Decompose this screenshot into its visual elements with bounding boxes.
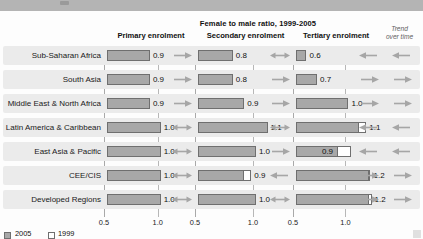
bar-2005 xyxy=(198,122,268,133)
row-label-middle-east-north-africa: Middle East & North Africa xyxy=(3,94,101,113)
cell-primary-row-6: 1.0 xyxy=(107,166,195,185)
chart-figure: Female to male ratio, 1999-2005 Primary … xyxy=(0,0,423,239)
column-header-primary: Primary enrolment xyxy=(108,31,194,40)
axis-tick-panel-3-1: 1.0 xyxy=(333,218,357,227)
column-header-tertiary: Tertiary enrolment xyxy=(296,31,376,40)
cell-primary-row-2: 0.9 xyxy=(107,70,195,89)
cell-primary-row-5: 1.0 xyxy=(107,142,195,161)
cell-tertiary-row-4: 1.1 xyxy=(296,118,382,137)
bar-value-label: 0.8 xyxy=(236,50,247,61)
cell-secondary-row-3: 0.9 xyxy=(198,94,293,113)
trend-over-time-cell-row-3 xyxy=(382,94,423,113)
trend-header-line-1: Trend xyxy=(376,25,423,33)
row-label-sub-saharan-africa: Sub-Saharan Africa xyxy=(3,46,101,65)
bar-value-label: 0.9 xyxy=(153,98,164,109)
trend-arrow-flat-icon xyxy=(269,195,291,204)
trend-arrow-up-icon xyxy=(391,75,413,84)
bar-2005 xyxy=(296,98,348,109)
axis-tick-panel-2-0.5: 0.5 xyxy=(183,218,207,227)
trend-arrow-up-icon xyxy=(391,171,413,180)
row-label-cee-cis: CEE/CIS xyxy=(3,166,101,185)
cell-primary-row-7: 1.0 xyxy=(107,190,195,209)
chart-supertitle: Female to male ratio, 1999-2005 xyxy=(108,19,408,28)
trend-arrow-up-icon xyxy=(391,195,413,204)
trend-over-time-cell-row-7 xyxy=(382,190,423,209)
cell-secondary-row-6: 0.9 xyxy=(198,166,293,185)
trend-arrow-up-icon xyxy=(171,51,193,60)
bar-value-label: 0.9 xyxy=(247,98,258,109)
column-header-trend: Trend over time xyxy=(376,25,423,41)
axis-tick-panel-3-0.5: 0.5 xyxy=(281,218,305,227)
axis-tick-panel-2-1: 1.0 xyxy=(241,218,265,227)
trend-arrow-flat-icon xyxy=(269,51,291,60)
bar-value-label: 0.9 xyxy=(153,50,164,61)
window-top-strip xyxy=(0,0,423,11)
trend-arrow-down-icon xyxy=(269,171,291,180)
cell-secondary-row-2: 0.8 xyxy=(198,70,293,89)
trend-arrow-up-icon xyxy=(358,99,380,108)
axis-tick-panel-1-0.5: 0.5 xyxy=(92,218,116,227)
column-header-secondary: Secondary enrolment xyxy=(199,31,292,40)
bar-value-label: 0.7 xyxy=(320,74,331,85)
trend-arrow-down-icon xyxy=(391,147,413,156)
bar-2005 xyxy=(198,98,244,109)
chart-rows: Sub-Saharan Africa0.90.80.6South Asia0.9… xyxy=(0,46,423,217)
cell-tertiary-row-6: 1.2 xyxy=(296,166,382,185)
bar-2005 xyxy=(296,122,359,133)
cell-primary-row-3: 0.9 xyxy=(107,94,195,113)
trend-over-time-cell-row-6 xyxy=(382,166,423,185)
bar-2005 xyxy=(198,194,256,205)
bar-2005 xyxy=(107,122,161,133)
row-label-east-asia-pacific: East Asia & Pacific xyxy=(3,142,101,161)
trend-header-line-2: over time xyxy=(376,33,423,41)
trend-arrow-down-icon xyxy=(358,51,380,60)
cell-tertiary-row-1: 0.6 xyxy=(296,46,382,65)
chart-row: Developed Regions1.01.01.2 xyxy=(3,190,420,209)
trend-arrow-flat-icon xyxy=(269,123,291,132)
legend-swatch-1999 xyxy=(48,232,55,239)
corner-marker xyxy=(413,230,421,238)
bar-value-label: 0.6 xyxy=(309,50,320,61)
trend-arrow-flat-icon xyxy=(171,171,193,180)
bar-value-label: 0.9 xyxy=(322,146,333,157)
bar-2005 xyxy=(296,50,306,61)
trend-arrow-flat-icon xyxy=(171,147,193,156)
cell-tertiary-row-3: 1.0 xyxy=(296,94,382,113)
cell-primary-row-1: 0.9 xyxy=(107,46,195,65)
bar-value-label: 0.9 xyxy=(153,74,164,85)
cell-secondary-row-4: 1.1 xyxy=(198,118,293,137)
bar-value-label: 0.8 xyxy=(236,74,247,85)
chart-row: CEE/CIS1.00.91.2 xyxy=(3,166,420,185)
bar-2005 xyxy=(107,194,161,205)
bar-2005 xyxy=(198,170,244,181)
bar-2005 xyxy=(107,98,150,109)
chart-row: Latin America & Caribbean1.01.11.1 xyxy=(3,118,420,137)
cell-tertiary-row-7: 1.2 xyxy=(296,190,382,209)
axis-tick-panel-1-1: 1.0 xyxy=(146,218,170,227)
bar-value-label: 0.9 xyxy=(254,170,265,181)
chart-row: East Asia & Pacific1.01.00.9 xyxy=(3,142,420,161)
cell-tertiary-row-2: 0.7 xyxy=(296,70,382,89)
bar-2005 xyxy=(198,146,256,157)
bar-2005 xyxy=(296,74,317,85)
cell-primary-row-4: 1.0 xyxy=(107,118,195,137)
cell-secondary-row-1: 0.8 xyxy=(198,46,293,65)
trend-arrow-flat-icon xyxy=(171,123,193,132)
trend-arrow-up-icon xyxy=(269,75,291,84)
cell-secondary-row-7: 1.0 xyxy=(198,190,293,209)
trend-over-time-cell-row-1 xyxy=(382,46,423,65)
bar-2005 xyxy=(107,170,161,181)
cell-tertiary-row-5: 0.9 xyxy=(296,142,382,161)
trend-arrow-up-icon xyxy=(358,195,380,204)
trend-arrow-up-icon xyxy=(391,99,413,108)
trend-over-time-cell-row-5 xyxy=(382,142,423,161)
trend-arrow-up-icon xyxy=(358,75,380,84)
trend-arrow-down-icon xyxy=(358,123,380,132)
chart-row: Sub-Saharan Africa0.90.80.6 xyxy=(3,46,420,65)
bar-2005 xyxy=(107,74,150,85)
bar-2005 xyxy=(198,74,233,85)
trend-arrow-up-icon xyxy=(171,75,193,84)
bar-2005 xyxy=(198,50,233,61)
window-notch xyxy=(60,1,69,5)
chart-row: Middle East & North Africa0.90.91.0 xyxy=(3,94,420,113)
